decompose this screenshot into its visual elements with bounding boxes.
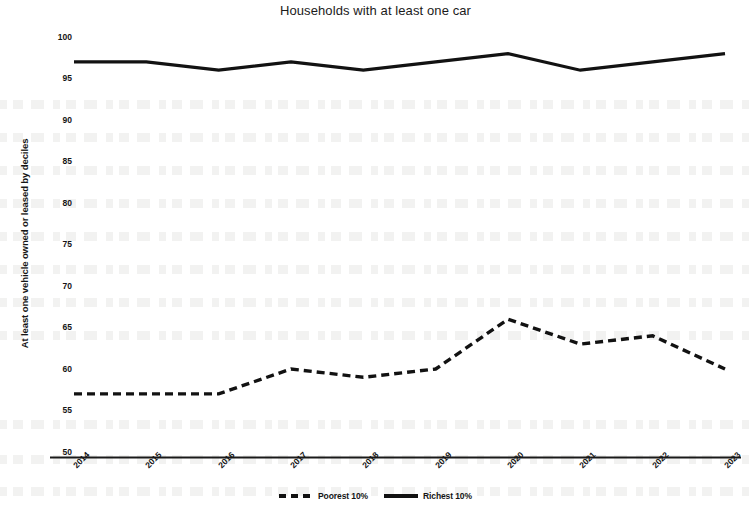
y-axis-tick-labels: 100 95 90 85 80 75 70 65 60 55 50 <box>0 0 72 510</box>
y-tick-label: 80 <box>30 198 72 208</box>
solid-line-swatch-icon <box>384 494 418 498</box>
y-tick-label: 100 <box>30 32 72 42</box>
series-line-richest <box>74 54 725 71</box>
chart-title: Households with at least one car <box>0 3 751 18</box>
dashed-line-swatch-icon <box>279 494 313 498</box>
legend-label-richest: Richest 10% <box>423 491 472 501</box>
y-tick-label: 75 <box>30 239 72 249</box>
series-line-poorest <box>74 319 725 394</box>
y-tick-label: 70 <box>30 281 72 291</box>
y-tick-label: 95 <box>30 73 72 83</box>
legend-label-poorest: Poorest 10% <box>318 491 368 501</box>
chart-figure: Households with at least one car At leas… <box>0 0 751 510</box>
legend-item-poorest[interactable]: Poorest 10% <box>279 491 368 501</box>
y-tick-label: 90 <box>30 115 72 125</box>
y-tick-label: 65 <box>30 322 72 332</box>
y-tick-label: 50 <box>30 447 72 457</box>
y-tick-label: 55 <box>30 405 72 415</box>
y-tick-label: 85 <box>30 156 72 166</box>
legend-item-richest[interactable]: Richest 10% <box>384 491 472 501</box>
chart-legend: Poorest 10% Richest 10% <box>0 491 751 501</box>
plot-area <box>0 0 751 510</box>
y-tick-label: 60 <box>30 364 72 374</box>
